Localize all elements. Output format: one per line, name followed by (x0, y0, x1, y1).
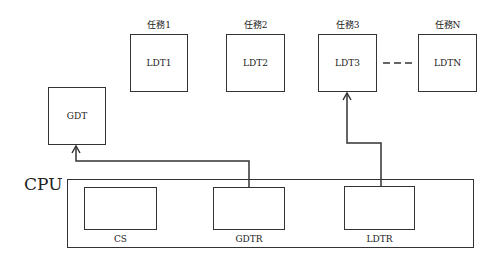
gdtr-to-gdt-connector (76, 146, 249, 188)
connector-lines (0, 0, 503, 261)
ldtr-to-ldt3-connector (347, 93, 381, 186)
